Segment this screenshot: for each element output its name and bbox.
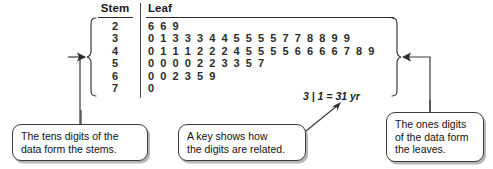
callout-tens-digits: The tens digits of the data form the ste…	[12, 124, 148, 161]
stem-and-leaf-plot: Stem Leaf 2 6 6 9 3 0 1 3 3 3 4 4 5 5 5 …	[96, 2, 396, 17]
callout-tens-line-2: data form the stems.	[21, 143, 140, 156]
callout-ones-line-3: the leaves.	[395, 143, 476, 156]
leaf-values: 0 0 2 3 5 9	[148, 70, 215, 82]
leaf-column-header: Leaf	[148, 2, 172, 14]
leaf-values: 0 1 1 1 2 2 2 4 5 5 5 5 6 6 6 6 7 8 9	[148, 45, 374, 57]
leaf-values: 0 0 0 0 2 2 3 3 5 7	[148, 57, 264, 69]
callout-key-line-2: the digits are related.	[187, 143, 298, 156]
callout-key-line-1: A key shows how	[187, 130, 298, 143]
stem-value: 6	[96, 70, 134, 82]
stem-value: 7	[96, 82, 134, 94]
leaf-values: 0	[148, 82, 154, 94]
callout-tens-line-1: The tens digits of the	[21, 130, 140, 143]
leaf-values: 6 6 9	[148, 20, 179, 32]
stem-column-header: Stem	[96, 2, 134, 14]
key-callout-leader	[300, 100, 346, 134]
callout-ones-line-1: The ones digits	[395, 118, 476, 131]
stems-callout-leader	[58, 55, 90, 127]
leaf-header-rule	[146, 17, 394, 18]
stem-value: 5	[96, 57, 134, 69]
table-row: 2 6 6 9	[96, 20, 396, 32]
stem-header-rule	[98, 17, 133, 18]
table-row: 3 0 1 3 3 3 4 4 5 5 5 5 7 7 8 8 9 9	[96, 32, 396, 44]
table-row: 6 0 0 2 3 5 9	[96, 70, 396, 82]
stem-value: 4	[96, 45, 134, 57]
table-row: 5 0 0 0 0 2 2 3 3 5 7	[96, 57, 396, 69]
leaves-callout-leader	[398, 55, 438, 117]
stem-value: 3	[96, 32, 134, 44]
table-row: 4 0 1 1 1 2 2 2 4 5 5 5 5 6 6 6 6 7 8 9	[96, 45, 396, 57]
callout-ones-line-2: of the data form	[395, 131, 476, 144]
callout-ones-digits: The ones digits of the data form the lea…	[386, 112, 484, 162]
callout-key-explanation: A key shows how the digits are related.	[178, 124, 306, 161]
plot-rows: 2 6 6 9 3 0 1 3 3 3 4 4 5 5 5 5 7 7 8 8 …	[96, 20, 396, 94]
stem-value: 2	[96, 20, 134, 32]
leaf-values: 0 1 3 3 3 4 4 5 5 5 5 7 7 8 8 9 9	[148, 32, 350, 44]
